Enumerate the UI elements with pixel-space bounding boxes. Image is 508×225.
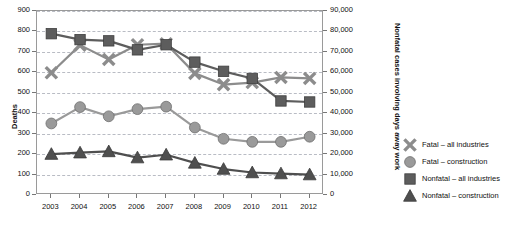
legend-item[interactable]: Fatal – construction [402,153,508,170]
series-square [46,28,315,107]
y-axis-right-tick-label: 0 [330,189,368,198]
y-axis-right-tick-label: 50,000 [330,87,368,96]
y-axis-left-tick-label: 700 [0,46,30,55]
y-axis-left-tick-label: 800 [0,25,30,34]
y-axis-left-tick-label: 0 [0,189,30,198]
x-cross-icon-glyph [404,139,415,150]
x-cross-icon [402,138,418,152]
series-line [51,107,309,142]
circle-icon [402,155,418,169]
data-point-marker [189,122,200,133]
legend-item[interactable]: Nonfatal – construction [402,187,508,204]
series-triangle [45,145,316,180]
y-axis-right-tick-label: 80,000 [330,25,368,34]
data-point-marker [190,57,200,67]
data-point-marker [304,97,314,107]
y-axis-left-tick-mark [32,194,36,195]
y-axis-left-tick-label: 500 [0,87,30,96]
y-axis-right-title: Nonfatal cases involving days away work [393,17,402,177]
series-x-cross [46,38,316,90]
y-axis-left-tick-label: 200 [0,148,30,157]
series-line [51,151,309,174]
legend-item-label: Fatal – all industries [422,140,489,149]
square-icon [402,172,418,186]
y-axis-right-tick-label: 60,000 [330,66,368,75]
y-axis-right-tick-label: 10,000 [330,169,368,178]
legend-item[interactable]: Fatal – all industries [402,136,508,153]
data-point-marker [46,28,56,38]
chart-legend: Fatal – all industriesFatal – constructi… [402,136,508,204]
y-axis-right-tick-label: 30,000 [330,128,368,137]
circle-icon-glyph [405,156,416,167]
data-point-marker [218,133,229,144]
y-axis-left-tick-label: 900 [0,5,30,14]
data-point-marker [276,136,287,147]
data-point-marker [46,67,57,78]
y-axis-left-tick-label: 100 [0,169,30,178]
triangle-icon [402,189,418,203]
y-axis-right-tick-label: 20,000 [330,148,368,157]
legend-item-label: Nonfatal – all industries [422,174,500,183]
y-axis-left-tick-label: 600 [0,66,30,75]
data-point-marker [161,40,171,50]
series-line [51,44,309,85]
legend-item-label: Fatal – construction [422,157,487,166]
y-axis-right-tick-label: 70,000 [330,46,368,55]
chart-container: Deaths Nonfatal cases involving days awa… [0,0,508,225]
data-point-marker [46,118,57,129]
data-point-marker [276,96,286,106]
data-point-marker [161,101,172,112]
legend-item-label: Nonfatal – construction [422,191,499,200]
data-point-marker [189,68,200,79]
data-point-marker [132,45,142,55]
data-point-marker [304,131,315,142]
y-axis-right-tick-label: 90,000 [330,5,368,14]
square-icon-glyph [405,173,415,183]
data-point-marker [247,136,258,147]
series-line [51,34,309,102]
triangle-icon-glyph [404,189,417,201]
x-axis-tick-label: 2012 [292,202,326,211]
y-axis-right-tick-label: 40,000 [330,107,368,116]
data-point-marker [218,66,228,76]
y-axis-left-tick-label: 400 [0,107,30,116]
data-point-marker [75,102,86,113]
data-point-marker [103,54,114,65]
data-point-marker [103,111,114,122]
y-axis-left-tick-label: 300 [0,128,30,137]
data-point-marker [132,104,143,115]
series-circle [46,101,315,147]
data-point-marker [75,34,85,44]
legend-item[interactable]: Nonfatal – all industries [402,170,508,187]
plot-area [36,10,323,194]
data-point-marker [247,73,257,83]
series-layer [37,11,324,195]
data-point-marker [104,36,114,46]
